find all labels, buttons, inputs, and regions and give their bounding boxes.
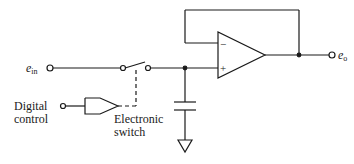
- switch-contact-left: [121, 66, 126, 71]
- opamp-minus-sign: −: [220, 38, 226, 50]
- input-label: ein: [26, 62, 38, 76]
- output-terminal: [329, 52, 335, 58]
- digital-control-terminal: [61, 104, 66, 109]
- input-terminal: [47, 65, 53, 71]
- switch-label-line2: switch: [114, 126, 145, 138]
- opamp-plus-sign: +: [220, 62, 226, 74]
- switch-label-line1: Electronic: [114, 113, 163, 125]
- circuit-diagram: [0, 0, 354, 164]
- output-label: eo: [338, 49, 347, 63]
- ground-symbol: [178, 140, 192, 152]
- switch-contact-right: [146, 66, 151, 71]
- digital-control-label-line2: control: [14, 113, 48, 125]
- digital-control-label-line1: Digital: [14, 100, 47, 112]
- switch-blade: [125, 62, 145, 68]
